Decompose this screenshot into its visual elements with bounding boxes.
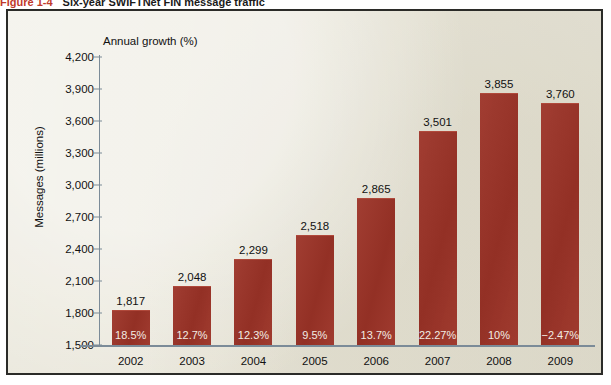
bar[interactable]: 12.3%	[234, 259, 272, 345]
bar-group: 12.3%2,299	[234, 57, 272, 345]
y-axis-tick-label: 2,700	[65, 211, 94, 223]
bar[interactable]: 22.27%	[419, 131, 457, 345]
bar-growth-label: 12.7%	[176, 329, 207, 341]
bar[interactable]: −2.47%	[541, 103, 579, 345]
bar-growth-label: 12.3%	[238, 329, 269, 341]
bar-growth-label: 18.5%	[115, 329, 146, 341]
bar-growth-label: −2.47%	[542, 329, 580, 341]
bar-growth-label: 13.7%	[361, 329, 392, 341]
bar-group: 13.7%2,865	[357, 57, 395, 345]
bar[interactable]: 13.7%	[357, 198, 395, 345]
y-axis-tick-label: 1,800	[65, 307, 94, 319]
bar-group: 18.5%1,817	[112, 57, 150, 345]
bar-growth-label: 10%	[488, 329, 510, 341]
figure-caption: Figure 1-4Six-year SWIFTNet FIN message …	[0, 0, 265, 9]
x-axis-tick-label: 2006	[346, 355, 407, 367]
bar[interactable]: 10%	[480, 93, 518, 345]
bar-group: 9.5%2,518	[296, 57, 334, 345]
bar-value-label: 2,518	[300, 220, 329, 232]
y-axis-tick-label: 2,100	[65, 275, 94, 287]
bar[interactable]: 9.5%	[296, 235, 334, 345]
bar-group: −2.47%3,760	[541, 57, 579, 345]
bar-group: 10%3,855	[480, 57, 518, 345]
bar-value-label: 2,299	[239, 244, 268, 256]
bar-value-label: 1,817	[116, 295, 145, 307]
x-axis-tick-label: 2009	[530, 355, 591, 367]
x-axis-line	[80, 345, 595, 347]
plot-area: 18.5%1,81712.7%2,04812.3%2,2999.5%2,5181…	[100, 57, 591, 345]
x-axis-tick-label: 2008	[468, 355, 529, 367]
x-axis-tick-label: 2002	[100, 355, 161, 367]
x-axis-tick-label: 2005	[284, 355, 345, 367]
y-axis-tick-label: 3,600	[65, 115, 94, 127]
bar[interactable]: 12.7%	[173, 286, 211, 345]
x-axis-tick-label: 2004	[223, 355, 284, 367]
bar-growth-label: 22.27%	[419, 329, 456, 341]
y-axis-tick-label: 3,000	[65, 179, 94, 191]
figure-title: Six-year SWIFTNet FIN message traffic	[63, 0, 265, 8]
bar-value-label: 3,855	[485, 78, 514, 90]
bar-group: 22.27%3,501	[419, 57, 457, 345]
chart-panel: Annual growth (%) Messages (millions) 1,…	[6, 9, 603, 375]
figure-number: Figure 1-4	[0, 0, 53, 8]
bar-value-label: 3,760	[546, 88, 575, 100]
y-axis-tick-labels: 1,5001,8002,1002,4002,7003,0003,3003,600…	[8, 11, 94, 375]
annual-growth-axis-label: Annual growth (%)	[103, 35, 198, 47]
y-axis-tick-label: 4,200	[65, 51, 94, 63]
bar-growth-label: 9.5%	[302, 329, 327, 341]
bar-value-label: 3,501	[423, 116, 452, 128]
x-axis-tick-label: 2003	[161, 355, 222, 367]
y-axis-tick-label: 3,300	[65, 147, 94, 159]
bar[interactable]: 18.5%	[112, 310, 150, 345]
y-axis-tick-label: 2,400	[65, 243, 94, 255]
x-axis-tick-label: 2007	[407, 355, 468, 367]
bar-group: 12.7%2,048	[173, 57, 211, 345]
bar-value-label: 2,048	[178, 271, 207, 283]
bar-value-label: 2,865	[362, 183, 391, 195]
y-axis-tick-label: 3,900	[65, 83, 94, 95]
